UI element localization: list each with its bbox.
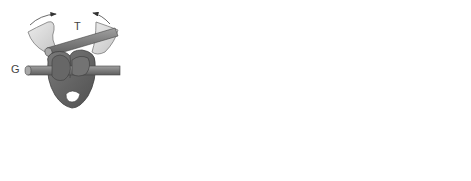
topoisomerase-diagram: [0, 0, 471, 181]
rotation-arrow-right-icon: [93, 13, 110, 24]
label-g: G: [11, 63, 20, 75]
stage-1: [25, 13, 120, 108]
label-t: T: [74, 20, 81, 32]
